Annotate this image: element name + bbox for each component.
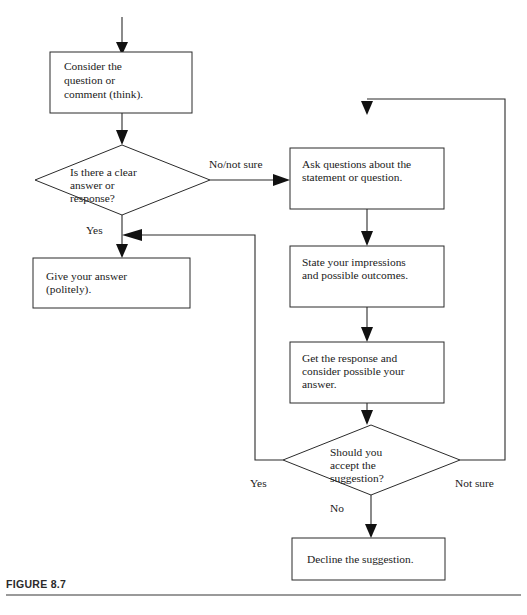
node-ask-questions-line1: Ask questions about the [302,158,411,170]
node-accept-suggestion-line1: Should you [330,446,383,458]
edge-entry-to-consider [116,17,128,55]
node-give-answer-line2: (politely). [46,283,91,296]
node-get-response: Get the response and consider possible y… [290,342,444,403]
edge-accept-suggestion-to-decline [365,495,377,538]
node-get-response-line2: consider possible your [302,365,405,377]
node-ask-questions: Ask questions about the statement or que… [290,148,444,209]
node-consider: Consider the question or comment (think)… [50,52,192,113]
node-accept-suggestion: Should you accept the suggestion? [283,425,460,495]
node-decline-line1: Decline the suggestion. [307,553,414,565]
node-consider-line3: comment (think). [64,88,143,101]
edge-label-no-not-sure: No/not sure [209,158,262,170]
edge-label-no-bottom: No [330,502,344,514]
edge-state-impressions-to-get-response [361,307,373,342]
figure-caption-rule [6,594,521,596]
node-decline: Decline the suggestion. [292,538,445,580]
node-give-answer-line1: Give your answer [46,270,127,282]
flowchart-canvas: Consider the question or comment (think)… [0,0,527,615]
edge-get-response-to-accept-suggestion [361,403,373,425]
node-give-answer: Give your answer (politely). [33,258,190,308]
figure-caption-label: FIGURE 8.7 [6,578,521,591]
edge-label-yes-bottom: Yes [250,477,267,489]
node-clear-answer: Is there a clear answer or response? [35,145,210,215]
figure-flowchart-8-7: Consider the question or comment (think)… [0,0,527,615]
node-clear-answer-line3: response? [70,192,115,204]
edge-ask-questions-to-state-impressions [361,209,373,246]
edge-label-not-sure: Not sure [455,477,494,489]
figure-caption: FIGURE 8.7 [6,578,521,596]
node-clear-answer-line1: Is there a clear [70,166,137,178]
edge-consider-to-clear-answer [116,113,128,145]
node-state-impressions-line1: State your impressions [302,256,406,268]
node-clear-answer-line2: answer or [70,179,115,191]
node-ask-questions-line2: statement or question. [302,171,402,183]
node-get-response-line3: answer. [302,378,337,390]
node-state-impressions: State your impressions and possible outc… [290,246,444,307]
node-consider-line2: question or [64,74,115,86]
node-get-response-line1: Get the response and [302,352,398,364]
node-accept-suggestion-line3: suggestion? [330,472,384,484]
node-state-impressions-line2: and possible outcomes. [302,269,408,281]
edge-clear-answer-to-ask-questions [210,174,290,186]
edge-clear-answer-to-give-answer [116,215,128,258]
node-consider-line1: Consider the [64,60,122,72]
node-accept-suggestion-line2: accept the [330,459,376,471]
edge-label-yes-top: Yes [86,224,103,236]
